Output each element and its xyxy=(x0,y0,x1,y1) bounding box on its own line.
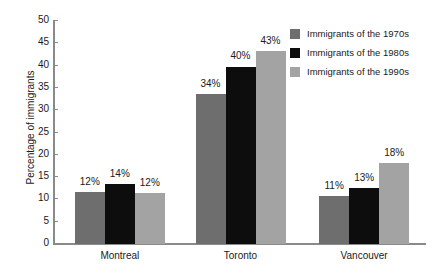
bar xyxy=(105,184,135,244)
y-axis-tick-label: 40 xyxy=(25,60,49,70)
chart-legend: Immigrants of the 1970sImmigrants of the… xyxy=(290,26,409,83)
legend-item[interactable]: Immigrants of the 1990s xyxy=(290,64,409,80)
legend-swatch-icon xyxy=(290,29,300,39)
y-axis-tick-label: 35 xyxy=(25,82,49,92)
legend-label: Immigrants of the 1990s xyxy=(307,67,409,77)
y-axis-tick-label: 5 xyxy=(25,216,49,226)
legend-swatch-icon xyxy=(290,67,300,77)
legend-item[interactable]: Immigrants of the 1980s xyxy=(290,45,409,61)
bar-value-label: 43% xyxy=(250,36,292,46)
y-axis-tick-label: 25 xyxy=(25,127,49,137)
legend-label: Immigrants of the 1970s xyxy=(307,29,409,39)
legend-item[interactable]: Immigrants of the 1970s xyxy=(290,26,409,42)
legend-label: Immigrants of the 1980s xyxy=(307,48,409,58)
bar xyxy=(256,51,286,244)
x-axis-category-label: Montreal xyxy=(50,250,190,261)
y-axis-tick-label: 45 xyxy=(25,37,49,47)
bar-value-label: 12% xyxy=(129,178,171,188)
bar-value-label: 18% xyxy=(373,148,415,158)
bar xyxy=(379,163,409,244)
bar xyxy=(319,196,349,244)
x-axis-category-label: Toronto xyxy=(171,250,311,261)
x-axis-category-label: Vancouver xyxy=(294,250,434,261)
y-axis-tick-label: 10 xyxy=(25,193,49,203)
y-axis-tick-label: 20 xyxy=(25,149,49,159)
y-axis-tick-label: 0 xyxy=(25,238,49,248)
bar xyxy=(226,67,256,245)
y-axis-tick-label: 50 xyxy=(25,15,49,25)
bar xyxy=(349,188,379,244)
y-axis-tick-label: 30 xyxy=(25,104,49,114)
bar xyxy=(75,192,105,244)
bar-chart: Percentage of immigrants 504540353025201… xyxy=(0,0,434,274)
bar xyxy=(135,193,165,244)
bar xyxy=(196,94,226,244)
legend-swatch-icon xyxy=(290,48,300,58)
y-axis-tick-label: 15 xyxy=(25,171,49,181)
